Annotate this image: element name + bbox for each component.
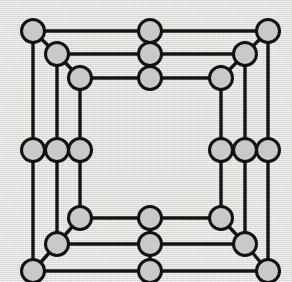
graph-node-outer-top-center: [139, 20, 162, 43]
graph-node-inner-top-center: [139, 67, 162, 90]
graph-node-inner-bottom-center: [139, 207, 162, 230]
figure-root: [0, 0, 292, 282]
graph-node-inner-left-middle: [69, 139, 92, 162]
graph-node-mid-top-right: [234, 43, 257, 66]
graph-node-inner-bottom-right: [210, 207, 233, 230]
graph-node-inner-bottom-left: [69, 207, 92, 230]
graph-diagram: [0, 0, 292, 282]
graph-node-outer-right-middle: [257, 139, 280, 162]
graph-node-mid-bottom-left: [46, 233, 69, 256]
node-layer: [22, 20, 280, 282]
graph-node-mid-right-middle: [234, 139, 257, 162]
graph-node-outer-top-right: [257, 20, 280, 43]
graph-node-outer-bottom-right: [257, 260, 280, 282]
graph-node-inner-top-right: [210, 67, 233, 90]
graph-node-outer-left-middle: [22, 139, 45, 162]
graph-node-inner-right-middle: [210, 139, 233, 162]
graph-node-mid-bottom-right: [234, 233, 257, 256]
graph-node-outer-top-left: [22, 20, 45, 43]
graph-node-mid-top-left: [46, 43, 69, 66]
graph-node-inner-top-left: [69, 67, 92, 90]
graph-node-mid-bottom-center: [139, 233, 162, 256]
graph-node-mid-left-middle: [46, 139, 69, 162]
graph-node-outer-bottom-left: [22, 260, 45, 282]
graph-node-mid-top-center: [139, 43, 162, 66]
graph-node-outer-bottom-center: [139, 260, 162, 282]
